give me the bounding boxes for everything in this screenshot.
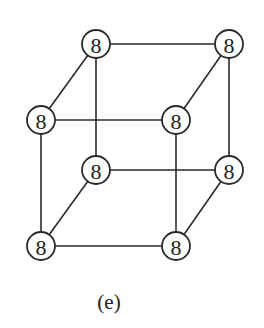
node-bottom-front-right: 8: [162, 232, 190, 260]
cube-graph-diagram: 88888888: [0, 0, 264, 328]
node-label: 8: [171, 109, 182, 134]
node-bottom-back-right: 8: [215, 156, 243, 184]
node-label: 8: [36, 235, 47, 260]
node-label: 8: [224, 159, 235, 184]
node-label: 8: [36, 109, 47, 134]
edges-group: [41, 44, 229, 246]
node-label: 8: [224, 33, 235, 58]
node-label: 8: [171, 235, 182, 260]
node-top-back-right: 8: [215, 30, 243, 58]
node-top-front-right: 8: [162, 106, 190, 134]
nodes-group: 88888888: [27, 30, 243, 260]
node-top-back-left: 8: [82, 30, 110, 58]
figure-caption: (e): [0, 290, 218, 315]
node-bottom-back-left: 8: [82, 156, 110, 184]
node-label: 8: [91, 33, 102, 58]
node-top-front-left: 8: [27, 106, 55, 134]
node-bottom-front-left: 8: [27, 232, 55, 260]
node-label: 8: [91, 159, 102, 184]
